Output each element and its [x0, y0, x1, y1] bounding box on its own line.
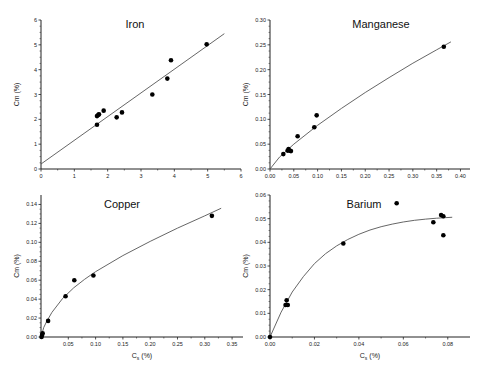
data-point — [210, 214, 215, 219]
x-tick-label: 0.40 — [455, 173, 466, 179]
y-tick-label: 0.06 — [255, 192, 266, 198]
x-tick-label: 0.20 — [360, 173, 371, 179]
y-axis-title: Cm (%) — [242, 83, 250, 107]
x-tick-label: 6 — [239, 173, 242, 179]
y-tick-label: 0.01 — [255, 310, 266, 316]
figure-canvas: 01234560123456Cm (%)Iron0.000.050.100.15… — [0, 0, 485, 379]
x-tick-label: 0.30 — [199, 341, 210, 347]
x-tick-label: 0 — [39, 173, 42, 179]
x-tick-label: 3 — [139, 173, 142, 179]
data-point — [91, 273, 96, 278]
x-tick-label: 5 — [206, 173, 209, 179]
chart-title: Barium — [347, 198, 382, 210]
x-tick-label: 2 — [106, 173, 109, 179]
data-point — [268, 335, 273, 340]
chart-title: Iron — [126, 18, 145, 30]
y-tick-label: 0.04 — [255, 239, 266, 245]
x-tick-label: 0.35 — [431, 173, 442, 179]
chart-panel-barium: 0.000.020.040.060.080.000.010.020.030.04… — [242, 192, 470, 361]
y-tick-label: 0.00 — [26, 334, 37, 340]
x-tick-label: 1 — [73, 173, 76, 179]
chart-panel-iron: 01234560123456Cm (%)Iron — [13, 17, 243, 179]
fit-curve — [270, 217, 452, 337]
data-point — [312, 125, 317, 130]
x-tick-label: 0.25 — [384, 173, 395, 179]
y-tick-label: 0.02 — [26, 315, 37, 321]
y-tick-label: 0.12 — [26, 220, 37, 226]
y-tick-label: 3 — [34, 92, 37, 98]
data-point — [120, 110, 125, 115]
y-tick-label: 0.04 — [26, 296, 37, 302]
x-tick-label: 0.15 — [118, 341, 129, 347]
x-tick-label: 0.15 — [336, 173, 347, 179]
data-point — [114, 115, 119, 120]
x-tick-label: 0.08 — [442, 341, 453, 347]
x-tick-label: 0.20 — [145, 341, 156, 347]
x-tick-label: 0.00 — [265, 341, 276, 347]
y-tick-label: 0.10 — [255, 116, 266, 122]
x-tick-label: 0.05 — [63, 341, 74, 347]
data-point — [165, 76, 170, 81]
x-axis-title: Cs (%) — [132, 352, 152, 361]
y-axis-title: Cm (%) — [13, 254, 21, 278]
data-point — [63, 294, 68, 299]
fit-curve — [41, 34, 224, 164]
y-tick-label: 1 — [34, 141, 37, 147]
y-tick-label: 4 — [34, 67, 37, 73]
data-point — [281, 152, 286, 157]
data-point — [204, 42, 209, 47]
x-tick-label: 0.04 — [354, 341, 365, 347]
data-point — [442, 45, 447, 50]
data-point — [285, 303, 290, 308]
data-point — [341, 241, 346, 246]
x-tick-label: 4 — [173, 173, 176, 179]
y-tick-label: 0.00 — [255, 166, 266, 172]
data-point — [40, 331, 45, 336]
y-tick-label: 2 — [34, 116, 37, 122]
y-tick-label: 0.15 — [255, 92, 266, 98]
data-point — [97, 112, 102, 117]
x-tick-label: 0.35 — [227, 341, 238, 347]
data-point — [441, 233, 446, 238]
y-tick-label: 0.20 — [255, 67, 266, 73]
data-point — [169, 58, 174, 63]
y-tick-label: 0.05 — [255, 141, 266, 147]
fit-curve — [41, 208, 221, 337]
y-tick-label: 6 — [34, 17, 37, 23]
data-point — [441, 214, 446, 219]
y-tick-label: 0 — [34, 166, 37, 172]
y-tick-label: 0.03 — [255, 263, 266, 269]
y-tick-label: 0.30 — [255, 17, 266, 23]
x-tick-label: 0.00 — [265, 173, 276, 179]
data-point — [95, 122, 100, 127]
y-axis-title: Cm (%) — [13, 83, 21, 107]
y-tick-label: 0.05 — [255, 216, 266, 222]
x-tick-label: 0.02 — [309, 341, 320, 347]
y-tick-label: 0.14 — [26, 201, 37, 207]
data-point — [101, 108, 106, 113]
chart-panel-manganese: 0.000.050.100.150.200.250.300.350.400.00… — [242, 17, 470, 179]
x-tick-label: 0.25 — [172, 341, 183, 347]
fit-curve — [270, 42, 451, 169]
data-point — [289, 149, 294, 154]
y-tick-label: 0.25 — [255, 42, 266, 48]
chart-panel-copper: 0.050.100.150.200.250.300.350.000.020.04… — [13, 195, 243, 361]
x-tick-label: 0.06 — [398, 341, 409, 347]
y-tick-label: 0.08 — [26, 258, 37, 264]
data-point — [46, 319, 51, 324]
data-point — [314, 113, 319, 118]
x-tick-label: 0.30 — [407, 173, 418, 179]
y-axis-title: Cm (%) — [242, 254, 250, 278]
y-tick-label: 0.10 — [26, 239, 37, 245]
data-point — [394, 201, 399, 206]
y-tick-label: 5 — [34, 42, 37, 48]
data-point — [284, 298, 289, 303]
data-point — [431, 220, 436, 225]
data-point — [150, 92, 155, 97]
x-tick-label: 0.10 — [312, 173, 323, 179]
y-tick-label: 0.06 — [26, 277, 37, 283]
chart-title: Manganese — [352, 18, 410, 30]
x-tick-label: 0.10 — [90, 341, 101, 347]
data-point — [72, 278, 77, 283]
chart-title: Copper — [104, 198, 140, 210]
